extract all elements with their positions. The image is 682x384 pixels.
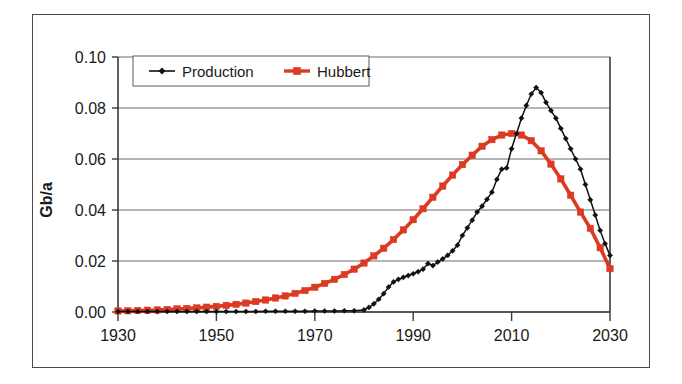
data-point-marker [597,245,603,251]
data-point-marker [593,213,598,218]
data-point-marker [371,253,377,259]
data-point-marker [263,309,268,314]
data-point-marker [302,309,307,314]
data-point-marker [321,280,327,286]
legend-marker-hubbert [293,67,301,75]
data-point-marker [494,177,499,182]
x-tick-label: 1950 [199,327,235,344]
data-point-marker [607,253,612,258]
data-point-marker [283,309,288,314]
x-tick-label: 1990 [395,327,431,344]
data-point-marker [411,271,416,276]
data-point-marker [243,309,248,314]
x-tick-label: 2030 [592,327,628,344]
series-line [118,134,610,311]
data-point-marker [282,293,288,299]
data-point-marker [396,277,401,282]
data-point-marker [262,297,268,303]
data-point-marker [420,206,426,212]
legend-label-production: Production [182,63,254,80]
line-chart-svg: 0.000.020.040.060.080.10 193019501970199… [0,0,682,384]
data-series-group [115,85,613,314]
x-tick-label: 1930 [100,327,136,344]
data-point-marker [400,227,406,233]
data-point-marker [528,137,534,143]
data-point-marker [558,176,564,182]
data-point-marker [416,269,421,274]
y-tick-label: 0.00 [75,304,106,321]
data-point-marker [331,276,337,282]
data-point-marker [499,132,505,138]
data-point-marker [302,287,308,293]
data-point-marker [293,309,298,314]
y-tick-label: 0.02 [75,253,106,270]
data-point-marker [406,273,411,278]
data-point-marker [538,148,544,154]
data-point-marker [499,167,504,172]
data-point-marker [233,309,238,314]
series-hubbert [115,130,613,314]
data-point-marker [380,245,386,251]
data-point-marker [563,136,568,141]
y-tick-label: 0.10 [75,49,106,66]
data-point-marker [312,284,318,290]
data-point-marker [430,194,436,200]
data-point-marker [509,146,514,151]
data-point-marker [524,103,529,108]
data-point-marker [518,132,524,138]
y-tick-label: 0.08 [75,100,106,117]
data-point-marker [223,302,229,308]
data-point-marker [469,152,475,158]
data-point-marker [351,266,357,272]
data-point-marker [459,161,465,167]
data-point-marker [479,143,485,149]
data-point-marker [558,126,563,131]
data-point-marker [578,167,583,172]
y-tick-labels-group: 0.000.020.040.060.080.10 [75,49,106,321]
data-point-marker [410,216,416,222]
data-point-marker [401,275,406,280]
data-point-marker [272,295,278,301]
data-point-marker [588,197,593,202]
data-point-marker [583,182,588,187]
data-point-marker [292,290,298,296]
data-point-marker [341,271,347,277]
data-point-marker [519,116,524,121]
series-line [118,88,610,312]
y-axis-title: Gb/a [38,182,55,218]
data-point-marker [273,309,278,314]
x-tick-label: 1970 [297,327,333,344]
gridlines-group [118,57,610,312]
series-production [115,85,612,314]
x-tick-label: 2010 [494,327,530,344]
data-point-marker [253,309,258,314]
x-tick-labels-group: 193019501970199020102030 [100,327,628,344]
data-point-marker [253,298,259,304]
data-point-marker [361,260,367,266]
data-point-marker [577,209,583,215]
legend-label-hubbert: Hubbert [317,63,371,80]
data-point-marker [548,161,554,167]
x-tick-marks-group [112,57,610,321]
data-point-marker [224,309,229,314]
data-point-marker [598,228,603,233]
chart-legend: ProductionHubbert [133,56,371,86]
y-tick-label: 0.04 [75,202,106,219]
data-point-marker [607,265,613,271]
data-point-marker [504,165,509,170]
data-point-marker [489,136,495,142]
figure-canvas: 0.000.020.040.060.080.10 193019501970199… [0,0,682,384]
data-point-marker [449,172,455,178]
data-point-marker [587,225,593,231]
data-point-marker [243,300,249,306]
data-point-marker [568,146,573,151]
data-point-marker [440,183,446,189]
axes-group [118,57,610,312]
chart-area: 0.000.020.040.060.080.10 193019501970199… [0,0,682,384]
data-point-marker [390,236,396,242]
data-point-marker [233,301,239,307]
y-tick-label: 0.06 [75,151,106,168]
data-point-marker [567,192,573,198]
data-point-marker [573,156,578,161]
